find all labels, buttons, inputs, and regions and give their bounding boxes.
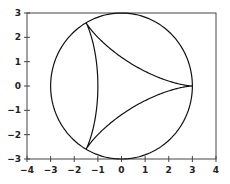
y-tick-label: −3 (7, 154, 21, 164)
x-tick-label: 2 (166, 165, 172, 175)
x-tick-label: 4 (213, 165, 219, 175)
x-tick-label: 3 (189, 165, 195, 175)
x-tick-label: 1 (142, 165, 148, 175)
x-tick-label: −3 (44, 165, 58, 175)
x-tick-label: −4 (20, 165, 34, 175)
x-tick-label: −2 (67, 165, 81, 175)
y-tick-label: −2 (7, 130, 21, 140)
plot-area: −4−3−2−101234 −3−2−10123 (0, 0, 230, 184)
x-tick-label: 0 (118, 165, 124, 175)
y-tick-label: 3 (15, 8, 21, 18)
y-tick-label: 1 (15, 57, 21, 67)
y-tick-label: −1 (7, 105, 21, 115)
y-tick-label: 0 (15, 81, 21, 91)
y-tick-label: 2 (15, 32, 21, 42)
x-tick-label: −1 (91, 165, 105, 175)
circle-curve (51, 13, 193, 159)
deltoid-curve (86, 23, 192, 149)
